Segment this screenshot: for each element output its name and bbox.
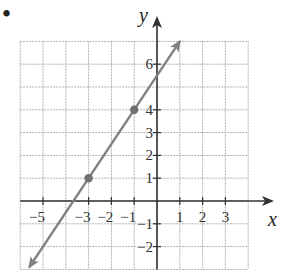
y-tick-label: 6 [146,56,154,72]
x-tick-label: 2 [199,209,207,225]
y-tick-label: −2 [137,239,153,255]
y-tick-label: 2 [146,147,154,163]
grid-lines [20,41,248,269]
y-tick-label: 1 [146,170,154,186]
x-axis-label: x [267,208,277,230]
x-tick-label: −3 [75,209,91,225]
y-tick-label: −1 [137,216,153,232]
y-tick-label: 3 [146,125,154,141]
data-point [130,106,138,114]
data-point [84,174,92,182]
coordinate-graph: xy −5−3−2−112364321−1−2 [0,0,284,280]
x-tick-label: −1 [120,209,136,225]
y-axis-label: y [137,4,148,27]
x-tick-label: 1 [176,209,184,225]
x-tick-label: 3 [222,209,230,225]
y-tick-label: 4 [146,102,154,118]
x-tick-label: −2 [97,209,113,225]
x-tick-label: −5 [29,209,45,225]
